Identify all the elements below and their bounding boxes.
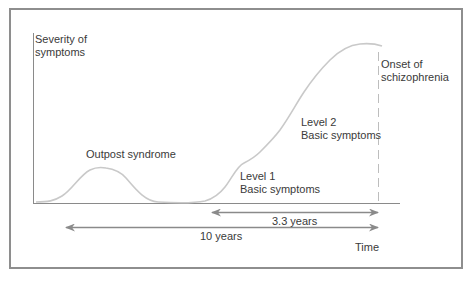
level-2-label: Level 2 Basic symptoms bbox=[301, 116, 381, 142]
interval-label-10-years: 10 years bbox=[200, 230, 242, 243]
y-axis-label-line-2: symptoms bbox=[35, 46, 87, 59]
outpost-syndrome-label: Outpost syndrome bbox=[86, 148, 176, 161]
onset-label: Onset of schizophrenia bbox=[381, 58, 449, 84]
y-axis-label-line-1: Severity of bbox=[35, 33, 87, 46]
y-axis-label: Severity of symptoms bbox=[35, 33, 87, 59]
level-2-label-line-1: Level 2 bbox=[301, 116, 381, 129]
level-1-label-line-2: Basic symptoms bbox=[240, 183, 320, 196]
level-2-label-line-2: Basic symptoms bbox=[301, 129, 381, 142]
onset-label-line-2: schizophrenia bbox=[381, 71, 449, 84]
onset-label-line-1: Onset of bbox=[381, 58, 449, 71]
x-axis-label: Time bbox=[355, 241, 379, 254]
interval-label-3-3-years: 3.3 years bbox=[272, 215, 317, 228]
level-1-label-line-1: Level 1 bbox=[240, 170, 320, 183]
level-1-label: Level 1 Basic symptoms bbox=[240, 170, 320, 196]
